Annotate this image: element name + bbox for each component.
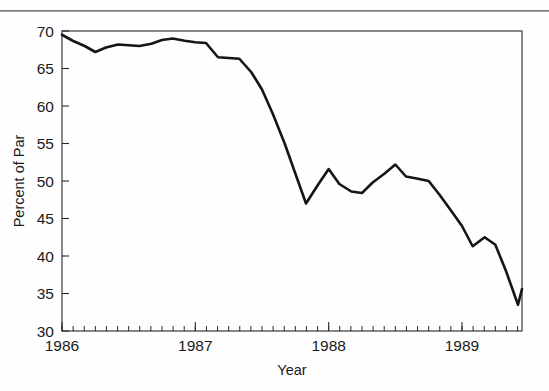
line-chart-figure: 303540455055606570 1986198719881989 Year…	[0, 0, 549, 391]
figure-page: 303540455055606570 1986198719881989 Year…	[0, 0, 549, 391]
x-tick-label-1989: 1989	[445, 337, 479, 354]
y-tick-label-50: 50	[37, 173, 55, 190]
plot-frame	[62, 31, 522, 331]
y-tick-label-60: 60	[37, 98, 55, 115]
x-tick-label-1987: 1987	[178, 337, 212, 354]
y-axis-tick-labels: 303540455055606570	[37, 23, 55, 340]
y-tick-label-40: 40	[37, 248, 55, 265]
x-tick-label-1988: 1988	[311, 337, 345, 354]
y-axis-title: Percent of Par	[11, 134, 27, 227]
y-tick-label-35: 35	[37, 285, 54, 302]
x-axis-title: Year	[277, 362, 306, 378]
y-axis-ticks	[62, 31, 69, 331]
chart-plot-area: 303540455055606570 1986198719881989 Year…	[0, 0, 549, 391]
y-tick-label-70: 70	[37, 23, 55, 40]
x-axis-tick-labels: 1986198719881989	[45, 337, 479, 354]
y-tick-label-55: 55	[37, 135, 54, 152]
y-tick-label-65: 65	[37, 60, 54, 77]
y-tick-label-45: 45	[37, 210, 54, 227]
x-axis-minor-ticks	[62, 326, 518, 331]
data-series-line	[62, 35, 522, 305]
x-tick-label-1986: 1986	[45, 337, 79, 354]
